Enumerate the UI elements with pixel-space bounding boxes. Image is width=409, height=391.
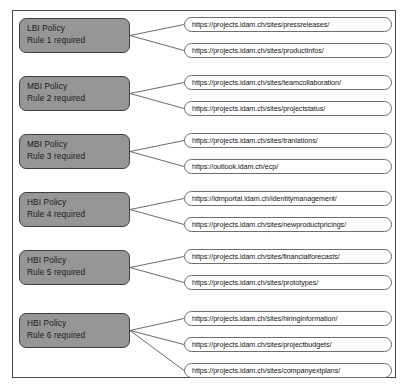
url-pill[interactable]: https://projects.idam.ch/sites/projectst… xyxy=(184,101,392,116)
policy-node-rule-3[interactable]: MBI PolicyRule 3 required xyxy=(19,134,130,169)
policy-node-rule-1[interactable]: LBI PolicyRule 1 required xyxy=(19,18,130,53)
url-pill[interactable]: https://projects.idam.ch/sites/tranlatio… xyxy=(184,133,392,148)
url-pill[interactable]: https://projects.idam.ch/sites/prototype… xyxy=(184,275,392,290)
url-pill[interactable]: https://outlook.idam.ch/ecp/ xyxy=(184,159,392,174)
url-pill[interactable]: https://projects.idam.ch/sites/pressrele… xyxy=(184,17,392,32)
policy-node-rule-4[interactable]: HBI PolicyRule 4 required xyxy=(19,192,130,227)
policy-mapping-diagram: LBI PolicyRule 1 requiredMBI PolicyRule … xyxy=(0,0,409,391)
policy-rule-label: Rule 3 required xyxy=(27,151,129,163)
policy-classification-label: MBI Policy xyxy=(27,139,129,151)
policy-classification-label: HBI Policy xyxy=(27,197,129,209)
policy-node-rule-6[interactable]: HBI PolicyRule 6 required xyxy=(19,313,130,348)
policy-rule-label: Rule 1 required xyxy=(27,35,129,47)
url-pill[interactable]: https://idmportal.idam.ch/identitymanage… xyxy=(184,191,392,206)
url-pill[interactable]: https://projects.idam.ch/sites/productin… xyxy=(184,43,392,58)
url-pill[interactable]: https://projects.idam.ch/sites/teamcolla… xyxy=(184,75,392,90)
policy-node-rule-2[interactable]: MBI PolicyRule 2 required xyxy=(19,76,130,111)
policy-rule-label: Rule 4 required xyxy=(27,209,129,221)
policy-classification-label: MBI Policy xyxy=(27,81,129,93)
policy-classification-label: LBI Policy xyxy=(27,23,129,35)
policy-rule-label: Rule 5 required xyxy=(27,267,129,279)
policy-rule-label: Rule 2 required xyxy=(27,93,129,105)
url-pill[interactable]: https://projects.idam.ch/sites/companyex… xyxy=(184,363,392,378)
url-pill[interactable]: https://projects.idam.ch/sites/hiringinf… xyxy=(184,311,392,326)
policy-classification-label: HBI Policy xyxy=(27,318,129,330)
policy-classification-label: HBI Policy xyxy=(27,255,129,267)
url-pill[interactable]: https://projects.idam.ch/sites/projectbu… xyxy=(184,337,392,352)
url-pill[interactable]: https://projects.idam.ch/sites/financial… xyxy=(184,249,392,264)
policy-node-rule-5[interactable]: HBI PolicyRule 5 required xyxy=(19,250,130,285)
policy-rule-label: Rule 6 required xyxy=(27,330,129,342)
url-pill[interactable]: https://projects.idam.ch/sites/newproduc… xyxy=(184,217,392,232)
